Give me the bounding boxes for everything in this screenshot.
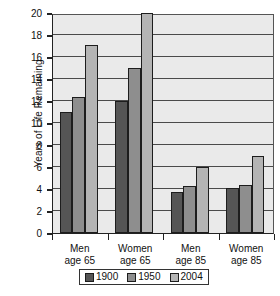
bar xyxy=(85,45,98,233)
y-tick-label: 10 xyxy=(16,119,42,129)
bar-chart-figure: Years of Life Remaining 0246810121416182… xyxy=(0,0,280,296)
y-tick-label: 14 xyxy=(16,75,42,85)
legend-swatch-icon xyxy=(170,273,179,282)
x-axis-category-line: age 65 xyxy=(52,255,108,267)
y-tick-label: 12 xyxy=(16,97,42,107)
bar xyxy=(60,112,73,233)
y-tick-label: 6 xyxy=(16,163,42,173)
bar xyxy=(252,156,265,233)
y-tick-label: 8 xyxy=(16,141,42,151)
x-axis-category-line: age 85 xyxy=(163,255,219,267)
bar xyxy=(171,192,184,233)
x-axis-category-line: age 85 xyxy=(219,255,275,267)
bar xyxy=(239,185,252,233)
x-tick-mark xyxy=(163,234,164,240)
x-axis-category-line: Women xyxy=(219,243,275,255)
legend: 190019502004 xyxy=(79,269,209,285)
x-axis-category-line: age 65 xyxy=(108,255,164,267)
x-axis-category-line: Men xyxy=(163,243,219,255)
legend-item: 1950 xyxy=(127,272,160,282)
legend-label: 2004 xyxy=(181,272,203,282)
y-tick-label: 16 xyxy=(16,53,42,63)
legend-swatch-icon xyxy=(85,273,94,282)
legend-swatch-icon xyxy=(127,273,136,282)
bar xyxy=(226,188,239,233)
bar xyxy=(183,186,196,233)
y-tick-label: 4 xyxy=(16,185,42,195)
bar xyxy=(141,13,154,233)
x-tick-mark xyxy=(52,234,53,240)
y-tick-label: 20 xyxy=(16,9,42,19)
plot-area xyxy=(52,14,274,234)
x-axis-category-label: Menage 65 xyxy=(52,243,108,267)
gridline xyxy=(53,34,273,35)
legend-label: 1950 xyxy=(138,272,160,282)
x-axis-category-line: Men xyxy=(52,243,108,255)
x-axis-category-label: Womenage 65 xyxy=(108,243,164,267)
figure-caption xyxy=(2,287,278,296)
x-axis-category-line: Women xyxy=(108,243,164,255)
x-tick-mark xyxy=(274,234,275,240)
x-tick-mark xyxy=(219,234,220,240)
y-tick-label: 0 xyxy=(16,229,42,239)
y-tick-label: 2 xyxy=(16,207,42,217)
legend-label: 1900 xyxy=(96,272,118,282)
bar xyxy=(128,68,141,233)
legend-item: 2004 xyxy=(170,272,203,282)
x-axis-category-label: Womenage 85 xyxy=(219,243,275,267)
bar xyxy=(196,167,209,233)
y-tick-label: 18 xyxy=(16,31,42,41)
bar xyxy=(72,97,85,233)
x-axis-category-label: Menage 85 xyxy=(163,243,219,267)
legend-item: 1900 xyxy=(85,272,118,282)
x-tick-mark xyxy=(108,234,109,240)
bar xyxy=(115,101,128,233)
